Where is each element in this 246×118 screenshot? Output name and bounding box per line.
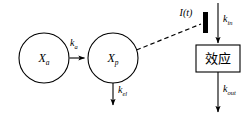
edge-xp-to-inhibition-bar [137,24,202,50]
pkpd-diagram: Xa Xp ka kel I(t) kin 效应 [0,0,246,118]
inhibition-bar [203,12,208,33]
edge-label-ka: ka [70,37,78,50]
node-label-effect: 效应 [205,51,231,66]
diagram-canvas: Xa Xp ka kel I(t) kin 效应 [0,0,246,118]
edge-label-kout: kout [223,83,236,96]
annotation-input-function: I(t) [179,7,193,19]
annotation-input-paren-close: ) [188,7,193,19]
edge-label-kel-subscript: el [122,90,127,97]
edge-label-kel: kel [118,84,127,97]
edge-label-kin: kin [223,13,233,26]
node-label-xa-subscript: a [46,58,50,67]
edge-label-ka-subscript: a [74,43,77,50]
edge-label-kout-subscript: out [227,89,236,96]
node-label-xp-subscript: p [114,58,119,67]
edge-label-kin-subscript: in [227,19,232,26]
